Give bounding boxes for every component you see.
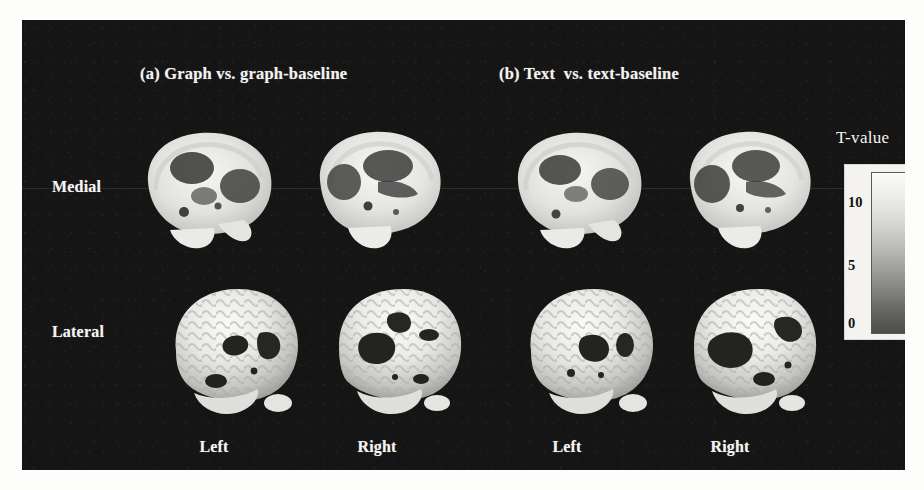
- brain-lateral-b-left: [515, 275, 665, 425]
- colorbar-box: 10 5 0: [844, 164, 905, 340]
- imaging-panel: (a) Graph vs. graph-baseline (b) Text vs…: [22, 20, 905, 470]
- colorbar-title: T-value: [836, 128, 889, 148]
- panel-title-a: (a) Graph vs. graph-baseline: [140, 64, 347, 84]
- colorbar-gradient: [871, 172, 905, 334]
- brain-medial-b-right: [670, 120, 830, 256]
- brain-medial-b-left: [500, 120, 660, 256]
- brain-medial-a-left: [130, 120, 290, 256]
- colorbar: T-value 10 5 0: [828, 128, 905, 348]
- brain-activation-figure: (a) Graph vs. graph-baseline (b) Text vs…: [0, 0, 924, 490]
- column-label-right-a: Right: [332, 438, 422, 456]
- panel-title-b: (b) Text vs. text-baseline: [499, 64, 679, 84]
- brain-lateral-a-right: [325, 275, 475, 425]
- brain-medial-a-right: [300, 120, 460, 256]
- row-label-medial: Medial: [52, 178, 101, 196]
- colorbar-tick-10: 10: [848, 194, 863, 211]
- column-label-left-b: Left: [522, 438, 612, 456]
- row-label-lateral: Lateral: [52, 323, 104, 341]
- brain-lateral-b-right: [680, 275, 830, 425]
- brain-lateral-a-left: [160, 275, 310, 425]
- colorbar-tick-0: 0: [848, 315, 855, 332]
- column-label-right-b: Right: [685, 438, 775, 456]
- colorbar-tick-5: 5: [848, 257, 855, 274]
- column-label-left-a: Left: [169, 438, 259, 456]
